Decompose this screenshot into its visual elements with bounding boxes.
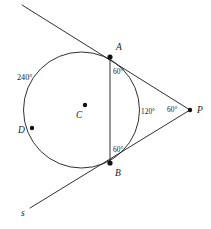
- geometry-diagram: A B C D P 240° 60° 60° 120° 60° s: [0, 0, 211, 229]
- label-angle-120: 120°: [141, 107, 155, 116]
- label-line-s: s: [21, 208, 25, 218]
- label-angle-at-p-60: 60°: [167, 105, 177, 114]
- label-point-b: B: [115, 168, 121, 178]
- label-angle-at-a-60: 60°: [113, 67, 123, 76]
- point-b-dot: [107, 160, 112, 165]
- label-point-a: A: [115, 42, 122, 52]
- point-d-dot: [30, 126, 34, 130]
- label-point-c: C: [76, 110, 83, 120]
- point-a-dot: [107, 54, 112, 59]
- point-p-dot: [188, 108, 192, 112]
- label-arc-240: 240°: [17, 73, 33, 82]
- label-angle-at-b-60: 60°: [113, 145, 123, 154]
- label-point-p: P: [196, 105, 203, 115]
- geometry-figure-container: A B C D P 240° 60° 60° 120° 60° s: [0, 0, 211, 229]
- label-point-d: D: [17, 125, 25, 135]
- point-c-center-dot: [83, 103, 87, 107]
